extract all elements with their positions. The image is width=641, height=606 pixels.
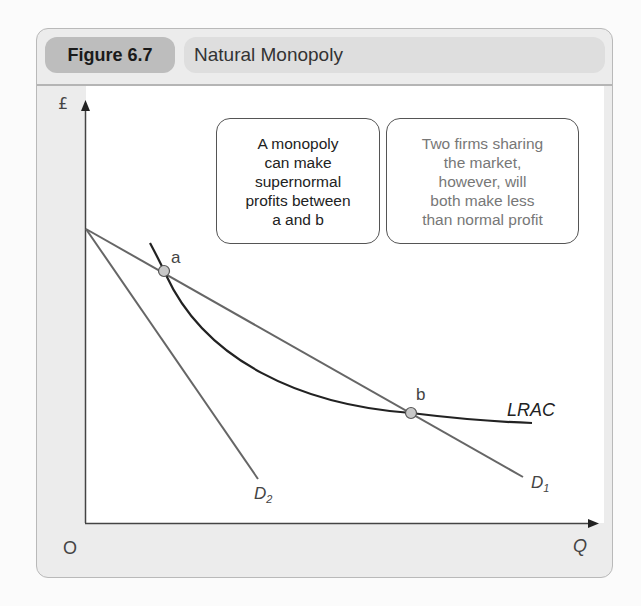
- y-axis-arrow-icon: [81, 100, 90, 111]
- demand-curve-d1: [86, 229, 523, 477]
- box2-line: both make less: [422, 191, 543, 210]
- box1-line: profits between: [245, 191, 350, 210]
- diagram-svg: [0, 0, 641, 606]
- box2-line: Two firms sharing: [422, 134, 543, 153]
- box1-line: can make: [245, 153, 350, 172]
- box1-line: a and b: [245, 210, 350, 229]
- origin-label: O: [63, 538, 77, 559]
- d1-label: D1: [531, 473, 549, 494]
- y-axis-label: £: [58, 94, 68, 113]
- box2-line: than normal profit: [422, 210, 543, 229]
- lrac-curve: [150, 243, 532, 423]
- d2-label: D2: [254, 484, 272, 505]
- box1-line: supernormal: [245, 172, 350, 191]
- annotation-two-firms: Two firms sharing the market, however, w…: [386, 118, 579, 244]
- lrac-label: LRAC: [507, 400, 555, 421]
- box1-line: A monopoly: [245, 134, 350, 153]
- x-axis-label: Q: [573, 536, 587, 557]
- box2-line: the market,: [422, 153, 543, 172]
- point-a-label: a: [171, 248, 180, 268]
- point-b-label: b: [416, 385, 425, 405]
- point-a: [159, 266, 170, 277]
- annotation-monopoly-profits: A monopoly can make supernormal profits …: [216, 118, 380, 244]
- point-b: [406, 408, 417, 419]
- x-axis-arrow-icon: [588, 519, 599, 528]
- box2-line: however, will: [422, 172, 543, 191]
